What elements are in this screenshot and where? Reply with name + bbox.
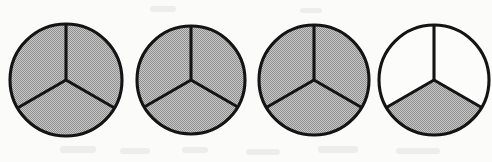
circle-1 (10, 24, 122, 136)
circle-2 (137, 26, 245, 134)
circle-4 (379, 25, 489, 135)
fraction-figure-container (0, 0, 492, 162)
fraction-circles-diagram (0, 0, 492, 162)
circle-3 (259, 25, 369, 135)
